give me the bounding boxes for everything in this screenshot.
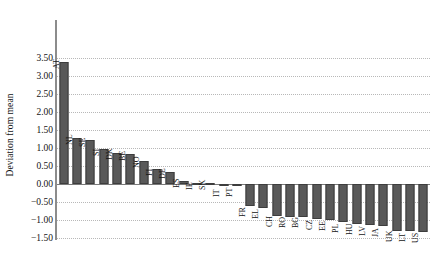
bar-slot[interactable]: FR — [244, 22, 257, 238]
bar-slot[interactable]: HU — [350, 22, 363, 238]
bar-slot[interactable]: RO — [283, 22, 296, 238]
y-tick-label: 1.50 — [36, 125, 53, 135]
bar-category-label: PL — [331, 224, 340, 233]
bar-slot[interactable]: SK — [204, 22, 217, 238]
y-tick-label: 1.00 — [36, 143, 53, 153]
bar-category-label: EL — [251, 210, 260, 220]
bar[interactable] — [366, 184, 375, 225]
plot-area: ATNLSESIDKBENOFIDEESIESKITPTFRELCHROBGCZ… — [57, 22, 430, 238]
bar-chart: Deviation from mean 3.503.002.502.001.50… — [0, 0, 436, 269]
bar-slot[interactable]: NO — [137, 22, 150, 238]
bar-slot[interactable]: NL — [70, 22, 83, 238]
bar[interactable] — [352, 184, 361, 224]
bar[interactable] — [219, 184, 228, 186]
bar-category-label: FR — [238, 208, 247, 218]
bar-slot[interactable]: FI — [150, 22, 163, 238]
bar-category-label: NO — [132, 157, 141, 169]
y-tick-label: 0.00 — [36, 179, 53, 189]
y-tick-label: −1.00 — [31, 215, 53, 225]
y-tick-label: −1.50 — [31, 233, 53, 243]
bar-category-label: ES — [172, 178, 181, 187]
bar-slot[interactable]: ES — [177, 22, 190, 238]
bar[interactable] — [406, 184, 415, 231]
bar-category-label: HU — [345, 223, 354, 235]
bar-slot[interactable]: IT — [217, 22, 230, 238]
y-tick-label: 2.50 — [36, 89, 53, 99]
bar[interactable] — [206, 183, 215, 185]
bar[interactable] — [419, 184, 428, 232]
bar[interactable] — [339, 184, 348, 222]
bar-slot[interactable]: SI — [97, 22, 110, 238]
bar-category-label: FI — [145, 169, 154, 176]
bar-category-label: NL — [65, 134, 74, 145]
bar-category-label: DK — [105, 149, 114, 161]
bar-slot[interactable]: AT — [57, 22, 70, 238]
bar-category-label: CH — [265, 216, 274, 227]
bar-slot[interactable]: CH — [270, 22, 283, 238]
bar-category-label: BE — [118, 151, 127, 161]
bar-slot[interactable]: CZ — [310, 22, 323, 238]
bar-slot[interactable]: EL — [257, 22, 270, 238]
bar-slot[interactable]: BE — [124, 22, 137, 238]
bar[interactable] — [259, 184, 268, 208]
bar-category-label: SK — [198, 179, 207, 189]
bar[interactable] — [86, 140, 95, 184]
bar-category-label: BG — [291, 217, 300, 228]
bar-slot[interactable]: PL — [337, 22, 350, 238]
bar[interactable] — [59, 62, 68, 184]
bar-category-label: UK — [385, 230, 394, 242]
bar-category-label: IT — [212, 189, 221, 197]
bar-category-label: AT — [52, 59, 61, 69]
bar-category-label: US — [411, 232, 420, 242]
gridline — [57, 238, 430, 239]
y-tick-label: 3.00 — [36, 71, 53, 81]
bar-slot[interactable]: PT — [230, 22, 243, 238]
bar-category-label: SE — [78, 138, 87, 147]
bar-category-label: JA — [371, 229, 380, 238]
bar-slot[interactable]: LT — [403, 22, 416, 238]
bar[interactable] — [379, 184, 388, 226]
bar-slot[interactable]: UK — [390, 22, 403, 238]
bar[interactable] — [272, 184, 281, 216]
bar-series: ATNLSESIDKBENOFIDEESIESKITPTFRELCHROBGCZ… — [57, 22, 430, 238]
y-tick-label: 0.50 — [36, 161, 53, 171]
bar-category-label: RO — [278, 217, 287, 228]
bar-slot[interactable]: BG — [297, 22, 310, 238]
bar[interactable] — [299, 184, 308, 217]
bar[interactable] — [246, 184, 255, 206]
bar-category-label: SI — [92, 149, 101, 156]
bar-slot[interactable]: JA — [377, 22, 390, 238]
bar[interactable] — [326, 184, 335, 220]
bar-category-label: IE — [185, 182, 194, 190]
bar-category-label: PT — [225, 188, 234, 197]
bar-slot[interactable]: US — [417, 22, 430, 238]
bar-category-label: LV — [358, 226, 367, 236]
bar-category-label: DE — [158, 169, 167, 180]
bar-slot[interactable]: EE — [323, 22, 336, 238]
bar-category-label: CZ — [305, 219, 314, 229]
y-tick-label: −0.50 — [31, 197, 53, 207]
bar[interactable] — [232, 184, 241, 186]
bar[interactable] — [392, 184, 401, 231]
bar-category-label: LT — [398, 233, 407, 242]
bar[interactable] — [312, 184, 321, 219]
y-tick-label: 2.00 — [36, 107, 53, 117]
y-tick-label: 3.50 — [36, 53, 53, 63]
y-axis-tick-labels: 3.503.002.502.001.501.000.500.00−0.50−1.… — [0, 0, 57, 269]
bar-slot[interactable]: DE — [164, 22, 177, 238]
bar-category-label: EE — [318, 221, 327, 231]
bar[interactable] — [286, 184, 295, 217]
bar-slot[interactable]: SE — [84, 22, 97, 238]
bar-slot[interactable]: LV — [363, 22, 376, 238]
bar-slot[interactable]: DK — [110, 22, 123, 238]
bar-slot[interactable]: IE — [190, 22, 203, 238]
